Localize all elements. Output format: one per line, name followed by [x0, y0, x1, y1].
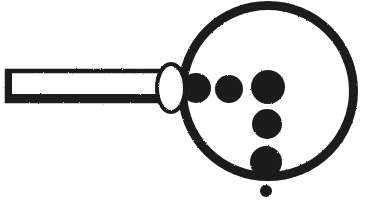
dot-3 [251, 70, 285, 104]
dot-2 [215, 75, 243, 103]
handle-bottom-shadow [6, 94, 178, 103]
collar-ferrule [157, 64, 185, 112]
dot-5 [250, 146, 282, 178]
magnifying-glass-illustration [0, 0, 376, 207]
background [0, 0, 376, 207]
figure-canvas: Black line drawing of a magnifying glass… [0, 0, 376, 207]
handle-end-cap [5, 70, 12, 103]
dot-4 [252, 109, 282, 139]
dot-6 [260, 185, 272, 197]
